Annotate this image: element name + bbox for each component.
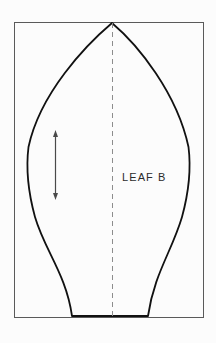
arrow-head-down-icon [53, 193, 58, 200]
leaf-pattern-diagram: LEAF B [0, 0, 216, 343]
diagram-canvas: LEAF B [0, 0, 216, 343]
leaf-outline [27, 23, 189, 316]
arrow-head-up-icon [53, 130, 58, 137]
grain-direction-arrow [53, 130, 58, 200]
border-rectangle [15, 23, 204, 318]
leaf-label: LEAF B [122, 171, 167, 183]
